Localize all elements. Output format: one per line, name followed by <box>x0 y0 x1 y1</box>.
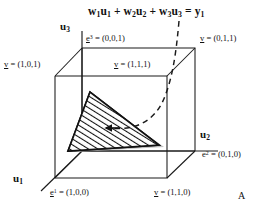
vertex-label-e1: e1 = (1,0,0) <box>50 188 89 197</box>
figure-canvas: w1u1 + w2u2 + w3u3 = y1 u3 u2 u1 e3 = (0… <box>0 0 267 209</box>
simplex-hatching <box>55 85 175 165</box>
cube-diagram-svg <box>0 0 267 209</box>
cube-edge-depth-bottomright <box>167 151 195 178</box>
equation-title: w1u1 + w2u2 + w3u3 = y1 <box>88 6 205 19</box>
vertex-label-v111: v = (1,1,1) <box>114 60 150 69</box>
coordinate-axes <box>41 31 218 191</box>
axis-label-u3: u3 <box>60 21 70 33</box>
axis-u1-line <box>41 151 82 191</box>
panel-label: A <box>238 191 245 201</box>
vertex-label-e2: e2 = (0,1,0) <box>202 150 241 159</box>
vertex-label-v110: v = (1,1,0) <box>154 188 190 197</box>
axis-label-u2: u2 <box>200 129 210 141</box>
cube-edge-depth-topleft <box>55 48 82 76</box>
axis-label-u1: u1 <box>13 173 23 185</box>
cube-edge-depth-topright <box>167 48 195 76</box>
vertex-label-v011: v = (0,1,1) <box>200 34 236 43</box>
vertex-label-v101: v = (1,0,1) <box>4 60 40 69</box>
simplex-plane-group <box>55 85 175 165</box>
vertex-label-e3: e3 = (0,0,1) <box>86 34 125 43</box>
